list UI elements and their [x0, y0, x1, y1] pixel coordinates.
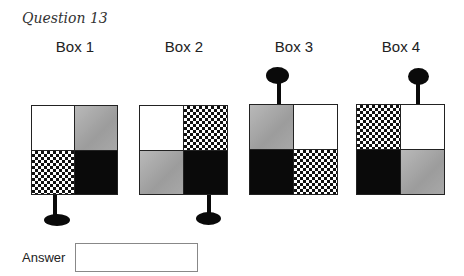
box-1-quadrant-bottom-left-black: [75, 151, 117, 195]
box-1-quadrant-top-left: [32, 106, 74, 150]
box-3-quadrant-top-right: [294, 105, 337, 149]
box-3-quadrant-top-left: [250, 105, 293, 149]
answer-input[interactable]: [75, 243, 198, 272]
box-4-handle-stick: [416, 83, 420, 105]
box-2-quadrant-top-right: [184, 106, 227, 150]
box-2-handle-knob-icon: [196, 212, 221, 225]
answer-label: Answer: [22, 250, 65, 265]
box-3-quadrant-bottom-left: [250, 150, 293, 194]
box-1-handle-stick: [53, 195, 57, 215]
box-1-quadrant-top-right: [75, 106, 117, 150]
box-1: [31, 105, 118, 195]
box-4-quadrant-top-left: [357, 105, 400, 149]
box-1-label: Box 1: [30, 38, 120, 55]
box-2-quadrant-bottom-right: [184, 151, 227, 195]
box-4-label: Box 4: [356, 38, 446, 55]
box-4: [356, 104, 445, 195]
question-title: Question 13: [22, 10, 108, 26]
box-4-quadrant-bottom-right: [401, 150, 444, 194]
box-3-label: Box 3: [249, 38, 339, 55]
box-3-quadrant-bottom-right: [294, 150, 337, 194]
box-2: [139, 105, 228, 195]
box-4-quadrant-bottom-left: [357, 150, 400, 194]
box-2-quadrant-bottom-left: [140, 151, 183, 195]
box-4-quadrant-top-right: [401, 105, 444, 149]
box-3: [249, 104, 338, 195]
box-1-quadrant-bottom-left: [32, 151, 74, 195]
box-1-handle-knob-icon: [44, 214, 70, 226]
box-2-label: Box 2: [139, 38, 229, 55]
box-3-handle-stick: [277, 82, 281, 105]
box-2-quadrant-top-left: [140, 106, 183, 150]
